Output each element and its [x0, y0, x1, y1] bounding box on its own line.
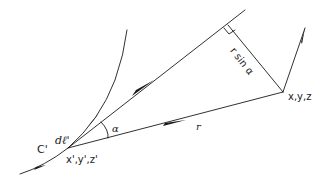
line-element-label: dℓ' [55, 135, 70, 146]
biot-savart-geometry-diagram [0, 0, 333, 184]
curve-label: C' [37, 144, 48, 155]
field-arrow-icon [301, 28, 305, 44]
tangent-arrow-icon [132, 80, 154, 96]
source-point-label: x',y',z' [66, 155, 98, 165]
field-direction-line [283, 28, 305, 92]
angle-arc [101, 122, 108, 138]
position-vector-r [68, 92, 283, 148]
field-point-label: x,y,z [288, 92, 311, 102]
vector-r-arrow-icon [163, 120, 186, 126]
tangent-line [68, 10, 245, 148]
vector-r-label: r [196, 122, 201, 132]
right-angle-marker [224, 28, 235, 34]
angle-label: α [112, 124, 119, 134]
